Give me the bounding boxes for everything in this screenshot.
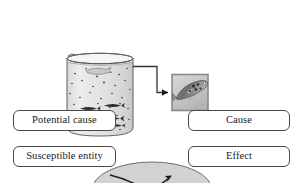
node-susceptible-entity[interactable]: Susceptible entity (13, 146, 116, 167)
crossing-arrows (110, 175, 170, 183)
arrowheads (165, 176, 172, 184)
node-effect[interactable]: Effect (188, 146, 290, 167)
node-label-cause: Cause (226, 115, 252, 126)
magnify-connector-arrow (133, 67, 168, 96)
node-label-effect: Effect (226, 151, 252, 162)
node-cause[interactable]: Cause (188, 110, 290, 131)
water-surface-line (67, 63, 133, 66)
figure-root: Potential cause Susceptible entity Cause… (0, 0, 304, 183)
node-label-susceptible-entity: Susceptible entity (26, 151, 103, 162)
node-label-potential-cause: Potential cause (32, 115, 97, 126)
node-potential-cause[interactable]: Potential cause (13, 110, 116, 131)
illustration-beaker-and-inset (0, 0, 304, 100)
fish-spots (189, 83, 202, 92)
